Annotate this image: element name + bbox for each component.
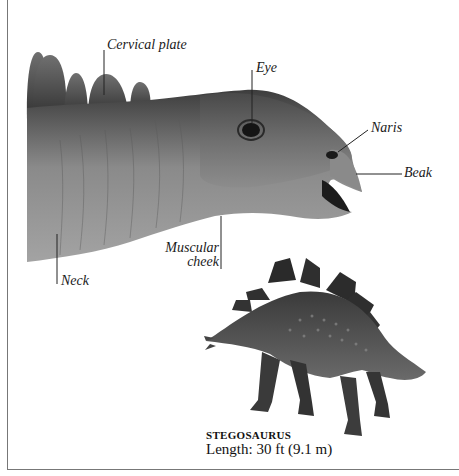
label-muscular-cheek-line1: Muscular <box>157 241 219 255</box>
label-cervical-plate: Cervical plate <box>107 38 187 52</box>
caption-length: Length: 30 ft (9.1 m) <box>206 441 332 458</box>
label-beak: Beak <box>404 166 432 180</box>
label-muscular-cheek-line2: cheek <box>157 255 219 269</box>
eye <box>242 123 260 137</box>
label-eye: Eye <box>256 61 277 75</box>
stegosaurus-illustration <box>0 0 459 476</box>
label-naris: Naris <box>371 121 402 135</box>
caption-title: STEGOSAURUS <box>206 429 291 441</box>
naris <box>326 151 338 159</box>
label-neck: Neck <box>61 274 89 288</box>
stegosaurus-figure <box>204 258 426 436</box>
